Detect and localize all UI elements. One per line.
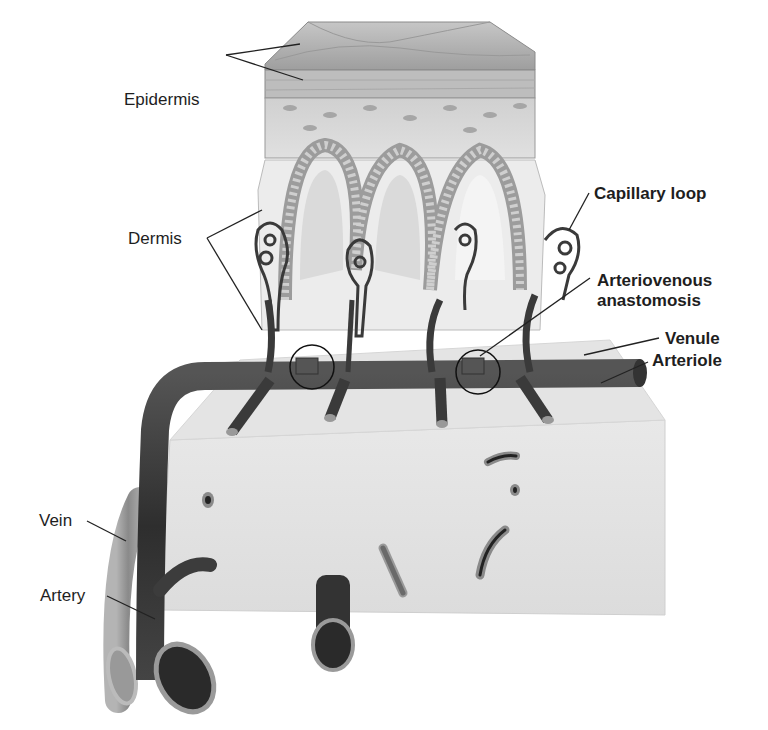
label-artery: Artery xyxy=(40,587,85,605)
label-epidermis: Epidermis xyxy=(124,91,200,109)
label-vein: Vein xyxy=(39,512,72,530)
label-arteriovenous-line1: Arteriovenous xyxy=(597,272,712,290)
label-arteriole: Arteriole xyxy=(652,352,722,370)
label-venule: Venule xyxy=(665,330,720,348)
label-anastomosis-line2: anastomosis xyxy=(597,292,701,310)
skin-vasculature-diagram: Epidermis Dermis Capillary loop Arteriov… xyxy=(0,0,768,730)
label-dermis: Dermis xyxy=(128,230,182,248)
epidermis-layer xyxy=(265,22,535,158)
label-capillary-loop: Capillary loop xyxy=(594,185,706,203)
dermis-layer xyxy=(258,145,545,330)
